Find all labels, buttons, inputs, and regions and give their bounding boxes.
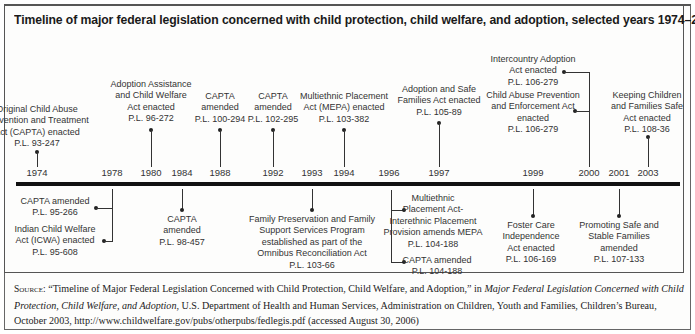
- connector-line: [575, 111, 589, 112]
- connector-line: [312, 189, 313, 210]
- connector-line: [439, 123, 440, 167]
- connector-line: [104, 241, 112, 242]
- event-1978-icwa: Indian Child WelfareAct (ICWA) enactedP.…: [15, 224, 96, 258]
- event-2000-capea: Child Abuse Preventionand Enforcement Ac…: [486, 90, 580, 136]
- connector-line: [112, 189, 113, 242]
- year-label: 1996: [378, 167, 399, 178]
- connector-line: [151, 130, 152, 167]
- connector-line: [273, 130, 274, 167]
- year-label: 1988: [209, 167, 230, 178]
- figure-title: Timeline of major federal legislation co…: [14, 13, 695, 27]
- event-1988: CAPTAamendedP.L. 100-294: [195, 91, 245, 125]
- event-1978-capta: CAPTA amendedP.L. 95-266: [21, 196, 90, 219]
- event-1980: Adoption Assistanceand Child WelfareAct …: [110, 79, 191, 125]
- year-label: 1974: [26, 167, 47, 178]
- year-label: 1993: [301, 167, 322, 178]
- year-label: 1978: [101, 167, 122, 178]
- year-label: 1997: [428, 167, 449, 178]
- connector-line: [648, 137, 649, 167]
- connector-line: [619, 189, 620, 216]
- connector-line: [182, 189, 183, 210]
- connector-line: [220, 130, 221, 167]
- event-1992: CAPTAamendedP.L. 102-295: [248, 91, 298, 125]
- year-label: 2000: [578, 167, 599, 178]
- event-1984: CAPTAamendedP.L. 98-457: [159, 214, 204, 248]
- event-1996-capta: CAPTA amendedP.L. 104-188: [403, 255, 472, 278]
- year-label: 1994: [333, 167, 354, 178]
- event-1999: Foster CareIndependenceAct enactedP.L. 1…: [502, 220, 559, 266]
- year-label: 1992: [262, 167, 283, 178]
- event-1993: Family Preservation and FamilySupport Se…: [249, 214, 375, 271]
- event-1974: Original Child AbusePrevention and Treat…: [0, 104, 89, 150]
- connector-line: [533, 189, 534, 216]
- year-label: 1984: [171, 167, 192, 178]
- event-1997: Adoption and SafeFamilies Act enactedP.L…: [397, 84, 480, 118]
- connector-line: [589, 72, 590, 167]
- marker-dot: [531, 214, 535, 218]
- connector-line: [564, 72, 589, 73]
- marker-dot: [310, 208, 314, 212]
- event-1996-mepa: MultiethnicPlacement Act-Interethnic Pla…: [384, 193, 483, 250]
- marker-dot: [180, 208, 184, 212]
- year-label: 2003: [637, 167, 658, 178]
- year-label: 2001: [608, 167, 629, 178]
- year-label: 1999: [522, 167, 543, 178]
- year-label: 1980: [140, 167, 161, 178]
- connector-line: [96, 208, 112, 209]
- timeline-axis: [16, 182, 680, 186]
- event-1994: Multiethnic PlacementAct (MEPA) enactedP…: [300, 91, 388, 125]
- source-citation: Source: “Timeline of Major Federal Legis…: [14, 281, 684, 329]
- marker-dot: [617, 214, 621, 218]
- event-2001: Promoting Safe andStable Familiesamended…: [579, 220, 659, 266]
- event-2003: Keeping Childrenand Families SafeAct ena…: [611, 90, 683, 136]
- connector-line: [344, 130, 345, 167]
- connector-line: [37, 152, 38, 167]
